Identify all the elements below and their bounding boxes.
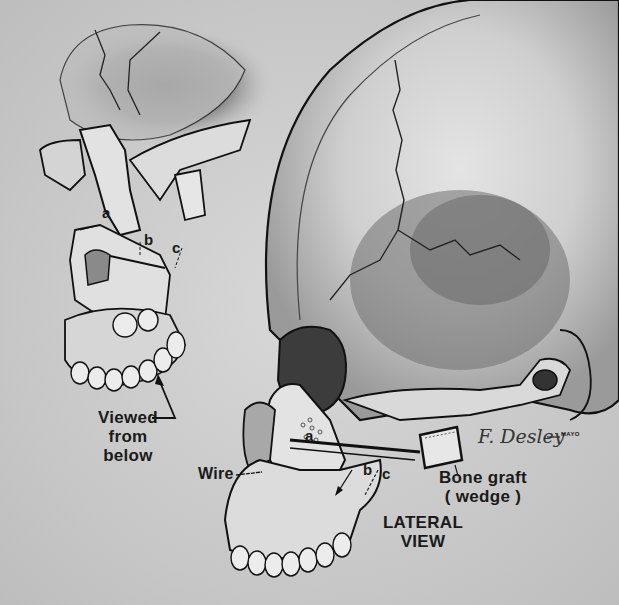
caption-line-1: Viewed from	[78, 408, 178, 446]
bone-graft-line-2: ( wedge )	[428, 487, 538, 506]
marker-a-lateral: a	[305, 428, 314, 443]
marker-b-lateral: b	[363, 462, 372, 477]
wire-label: Wire	[198, 466, 234, 481]
bone-graft-line-1: Bone graft	[428, 468, 538, 487]
lateral-line-2: VIEW	[378, 532, 468, 551]
lateral-skull-view	[225, 0, 619, 577]
marker-b-upper: b	[144, 232, 153, 247]
upper-skull-view	[40, 25, 275, 418]
bone-graft-label: Bone graft ( wedge )	[428, 468, 538, 506]
marker-c-upper: c	[172, 240, 181, 255]
lateral-view-caption: LATERAL VIEW	[378, 513, 468, 551]
signature-mark: MAYO	[561, 431, 580, 437]
marker-a-upper: a	[102, 205, 111, 220]
skull-drawings	[0, 0, 619, 605]
artist-signature: F. Desley	[478, 425, 565, 447]
caption-line-2: below	[78, 446, 178, 465]
caption-viewed-from-below: Viewed from below	[78, 408, 178, 465]
lateral-line-1: LATERAL	[378, 513, 468, 532]
marker-c-lateral: c	[382, 466, 391, 481]
